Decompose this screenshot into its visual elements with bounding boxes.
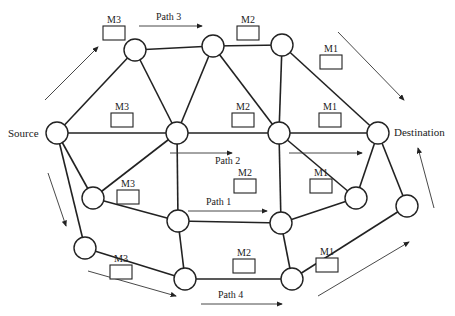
edge-t2-m1 [177, 46, 213, 133]
edge-b-c [178, 221, 281, 223]
path-2-label: Path 2 [215, 155, 240, 166]
module-label-m3: M3 [114, 253, 128, 264]
module-label-m1: M1 [320, 246, 334, 257]
edge-m1-a [93, 133, 177, 198]
module-label-m3: M3 [115, 101, 129, 112]
edge-t3-m2 [279, 45, 282, 133]
node-h [396, 195, 418, 217]
path-4-label: Path 4 [218, 289, 243, 300]
left-down-arrow [48, 173, 66, 226]
module-label-m1: M1 [323, 101, 337, 112]
node-a [82, 187, 104, 209]
node-c [270, 212, 292, 234]
module-box-m3 [110, 265, 132, 279]
upper-left-arrow [45, 47, 98, 100]
labels: Source Destination Path 3 Path 2 Path 1 … [8, 11, 445, 300]
module-box-m3 [111, 113, 133, 127]
module-label-m1: M1 [324, 43, 338, 54]
node-t3 [271, 34, 293, 56]
node-d [345, 187, 367, 209]
edge-c-d [281, 198, 356, 223]
module-box-m1 [316, 258, 338, 272]
module-label-m3: M3 [107, 14, 121, 25]
module-box-m1 [319, 113, 341, 127]
module-box-m1 [320, 55, 342, 69]
edge-g-h [292, 206, 407, 279]
node-t2 [202, 35, 224, 57]
network-diagram: M3M2M1M3M2M1M3M2M1M3M2M1 Source Destinat… [0, 0, 455, 316]
destination-node [367, 122, 389, 144]
edge-t1-t2 [135, 46, 213, 50]
module-box-m2 [237, 26, 259, 40]
module-label-m2: M2 [241, 14, 255, 25]
module-box-m2 [232, 113, 254, 127]
module-box-m3 [117, 190, 139, 204]
module-label-m2: M2 [236, 101, 250, 112]
node-m2 [268, 122, 290, 144]
edge-t1-m1 [135, 50, 177, 133]
module-box-m2 [234, 179, 256, 193]
node-m1 [166, 122, 188, 144]
edge-dest-h [378, 133, 407, 206]
node-g [281, 268, 303, 290]
edge-m1-b [177, 133, 178, 221]
edge-source-e [57, 133, 85, 248]
module-box-m1 [310, 179, 332, 193]
top-right-arrow [338, 32, 404, 100]
destination-label: Destination [394, 126, 445, 138]
source-node [46, 122, 68, 144]
diagram-svg: M3M2M1M3M2M1M3M2M1M3M2M1 Source Destinat… [0, 0, 455, 316]
node-e [74, 237, 96, 259]
node-f [174, 268, 196, 290]
module-box-m2 [233, 259, 255, 273]
module-label-m3: M3 [121, 178, 135, 189]
path-3-label: Path 3 [156, 11, 181, 22]
module-label-m1: M1 [314, 167, 328, 178]
module-box-m3 [103, 26, 125, 40]
source-label: Source [8, 127, 39, 139]
right-up-arrow [418, 148, 434, 208]
path-1-label: Path 1 [206, 196, 231, 207]
module-label-m2: M2 [237, 247, 251, 258]
edge-m2-c [279, 133, 281, 223]
node-t1 [124, 39, 146, 61]
node-b [167, 210, 189, 232]
module-label-m2: M2 [238, 167, 252, 178]
